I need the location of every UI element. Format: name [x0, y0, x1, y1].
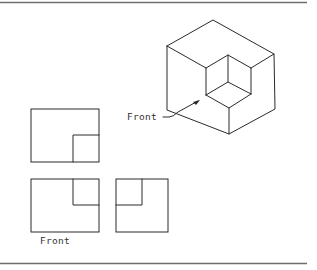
- top-view-notch: [73, 135, 99, 162]
- top-face-left-edge: [167, 46, 206, 68]
- arrowhead-icon: [193, 100, 200, 105]
- leader-line: [163, 101, 198, 117]
- front-view-label: Front: [40, 235, 70, 246]
- top-view: [31, 109, 99, 162]
- isometric-front-label: Front: [127, 111, 157, 122]
- front-view: Front: [31, 179, 99, 246]
- right-side-view: [116, 179, 168, 232]
- drawing-canvas: Front Front: [0, 0, 317, 270]
- front-view-notch: [73, 179, 99, 205]
- side-view-notch: [116, 179, 142, 205]
- outer-outline: [167, 20, 275, 134]
- isometric-view: Front: [127, 20, 275, 134]
- notch-floor-back: [206, 82, 251, 95]
- notch-floor-front: [206, 94, 251, 108]
- top-face-right-edge: [251, 54, 274, 68]
